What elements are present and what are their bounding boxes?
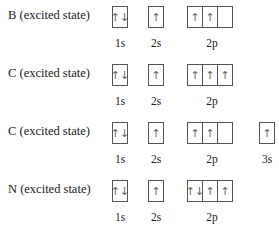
orbital-box: ↑ [203,64,218,86]
orbital-label: 2p [197,153,227,165]
row-label: N (excited state) [8,182,91,197]
orbital-2s: ↑ [148,6,164,28]
orbital-1s: ↑↓ [112,180,128,202]
orbital-box: ↑↓ [112,180,128,202]
row-label: C (excited state) [8,66,90,81]
orbital-box: ↑ [187,122,203,144]
orbital-label: 2p [197,37,227,49]
orbital-box: ↑ [187,6,203,28]
orbital-label: 2s [141,211,171,223]
orbital-2s: ↑ [148,64,164,86]
orbital-1s: ↑↓ [112,122,128,144]
orbital-label: 2s [141,153,171,165]
orbital-box: ↑ [259,122,275,144]
row-label: B (excited state) [8,8,90,23]
orbital-3s: ↑ [259,122,275,144]
orbital-2p: ↑ ↑ [187,122,233,144]
orbital-box: ↑↓ [187,180,203,202]
orbital-2s: ↑ [148,122,164,144]
orbital-box [218,122,233,144]
orbital-1s: ↑↓ [112,6,128,28]
orbital-box: ↑↓ [112,64,128,86]
orbital-box: ↑ [218,64,233,86]
orbital-box: ↑ [203,180,218,202]
orbital-2p: ↑↓ ↑ ↑ [187,180,233,202]
orbital-box: ↑ [203,122,218,144]
orbital-1s: ↑↓ [112,64,128,86]
orbital-box: ↑ [187,64,203,86]
orbital-2p: ↑ ↑ [187,6,233,28]
orbital-box: ↑ [148,6,164,28]
orbital-label: 1s [105,153,135,165]
orbital-label: 2p [197,211,227,223]
orbital-row-b-excited: B (excited state) ↑↓ 1s ↑ 2s ↑ ↑ 2p [0,0,279,50]
orbital-row-c-excited-3s: C (excited state) ↑↓ 1s ↑ 2s ↑ ↑ 2p ↑ 3s [0,116,279,166]
row-label: C (excited state) [8,124,90,139]
orbital-2p: ↑ ↑ ↑ [187,64,233,86]
orbital-label: 2s [141,37,171,49]
orbital-row-n-excited: N (excited state) ↑↓ 1s ↑ 2s ↑↓ ↑ ↑ 2p [0,174,279,224]
orbital-label: 1s [105,211,135,223]
orbital-label: 3s [252,153,279,165]
orbital-label: 2s [141,95,171,107]
orbital-box: ↑ [203,6,218,28]
orbital-2s: ↑ [148,180,164,202]
orbital-label: 2p [197,95,227,107]
orbital-box [218,6,233,28]
orbital-box: ↑ [218,180,233,202]
orbital-box: ↑ [148,122,164,144]
orbital-label: 1s [105,95,135,107]
orbital-box: ↑↓ [112,6,128,28]
orbital-box: ↑ [148,180,164,202]
orbital-box: ↑ [148,64,164,86]
orbital-label: 1s [105,37,135,49]
orbital-box: ↑↓ [112,122,128,144]
orbital-row-c-excited: C (excited state) ↑↓ 1s ↑ 2s ↑ ↑ ↑ 2p [0,58,279,108]
